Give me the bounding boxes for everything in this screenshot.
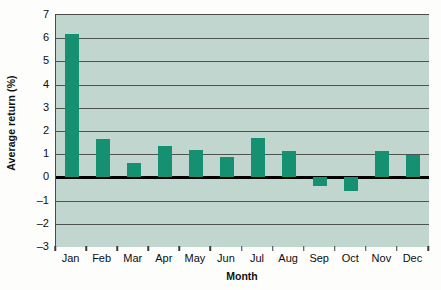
y-tick-label: 3	[11, 101, 55, 113]
y-tick-label: 4	[11, 78, 55, 90]
bar-aug	[282, 151, 296, 178]
x-tick	[334, 246, 336, 251]
x-tick	[427, 246, 429, 251]
gridline	[56, 131, 429, 132]
y-tick-label: 1	[11, 147, 55, 159]
chart-figure: Average return (%) 76543210–1–2–3 JanFeb…	[0, 0, 441, 290]
x-tick	[85, 246, 87, 251]
gridline	[56, 108, 429, 109]
x-tick	[303, 246, 305, 251]
x-tick	[396, 246, 398, 251]
plot-inner	[56, 15, 429, 247]
bar-jun	[220, 157, 234, 178]
x-tick	[54, 246, 56, 251]
y-tick-label: –2	[11, 217, 55, 229]
y-tick-label: –3	[11, 240, 55, 252]
bar-oct	[344, 177, 358, 191]
bar-sep	[313, 177, 327, 185]
x-axis-tick-labels: JanFebMarAprMayJunJulAugSepOctNovDec	[55, 252, 429, 268]
bar-may	[189, 150, 203, 178]
bar-feb	[96, 139, 110, 177]
gridline	[56, 38, 429, 39]
x-tick	[210, 246, 212, 251]
bar-mar	[127, 163, 141, 177]
bar-jan	[65, 34, 79, 178]
y-tick-label: 0	[11, 170, 55, 182]
gridline	[56, 154, 429, 155]
x-tick-label-dec: Dec	[392, 252, 432, 264]
bar-apr	[158, 146, 172, 177]
bar-jul	[251, 138, 265, 177]
x-tick	[241, 246, 243, 251]
bar-nov	[375, 151, 389, 178]
y-tick-label: 7	[11, 8, 55, 20]
y-axis-tick-labels: 76543210–1–2–3	[0, 14, 55, 246]
y-tick-label: –1	[11, 194, 55, 206]
x-tick	[365, 246, 367, 251]
gridline	[56, 85, 429, 86]
x-tick	[179, 246, 181, 251]
gridline	[56, 61, 429, 62]
y-tick-label: 6	[11, 31, 55, 43]
gridline	[56, 224, 429, 225]
x-axis-title: Month	[55, 270, 429, 282]
plot-area	[55, 14, 429, 247]
gridline	[56, 201, 429, 202]
zero-line	[56, 176, 429, 179]
x-tick	[148, 246, 150, 251]
bar-dec	[406, 155, 420, 177]
x-tick	[272, 246, 274, 251]
x-tick	[116, 246, 118, 251]
y-tick-label: 5	[11, 54, 55, 66]
y-tick-label: 2	[11, 124, 55, 136]
